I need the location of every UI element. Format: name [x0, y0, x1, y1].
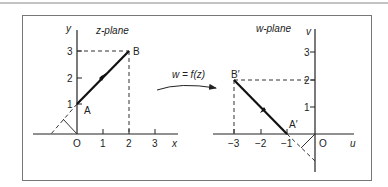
v-tick-2: 2	[304, 75, 310, 86]
v-tick-3: 3	[304, 47, 310, 58]
point-B-label: B	[133, 46, 140, 57]
figure-frame	[23, 16, 372, 181]
u-axis-label: u	[350, 138, 356, 149]
origin-label: O	[319, 138, 327, 149]
conformal-mapping-diagram: y z-plane 3 2 1 B A O 1 2 3 x w = f(z)	[0, 0, 388, 187]
w-plane: w-plane v 3 2 1 B′ A′ −3 −2 −1 O u	[213, 23, 356, 172]
x-tick-2: 2	[126, 138, 132, 149]
w-plane-title: w-plane	[256, 23, 291, 34]
u-tick-neg1: −1	[281, 138, 293, 149]
y-axis-label: y	[65, 23, 72, 34]
y-tick-2: 2	[67, 73, 73, 84]
origin-label: O	[73, 138, 81, 149]
curved-arrow-icon	[157, 85, 216, 90]
perpendicular-line	[63, 119, 77, 134]
point-A-prime-label: A′	[289, 119, 298, 130]
z-plane: y z-plane 3 2 1 B A O 1 2 3 x	[33, 23, 178, 149]
point-A-label: A	[84, 105, 91, 116]
z-plane-title: z-plane	[95, 25, 129, 36]
mapping-arrow: w = f(z)	[157, 69, 216, 90]
y-tick-1: 1	[67, 99, 73, 110]
v-axis-label: v	[306, 26, 312, 37]
x-axis-label: x	[171, 138, 178, 149]
point-B-prime-label: B′	[231, 69, 240, 80]
x-tick-3: 3	[152, 138, 158, 149]
perpendicular-line	[301, 134, 315, 148]
u-tick-neg2: −2	[255, 138, 267, 149]
y-tick-3: 3	[67, 46, 73, 57]
mapping-label: w = f(z)	[172, 69, 205, 80]
u-tick-neg3: −3	[228, 138, 240, 149]
x-tick-1: 1	[100, 138, 106, 149]
v-tick-1: 1	[304, 102, 310, 113]
segment-AB-image	[234, 80, 287, 134]
